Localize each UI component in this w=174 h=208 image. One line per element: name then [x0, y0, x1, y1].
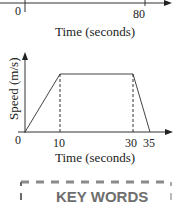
- key-words-dashed-border: [0, 0, 174, 208]
- key-words-title: KEY WORDS: [56, 188, 148, 205]
